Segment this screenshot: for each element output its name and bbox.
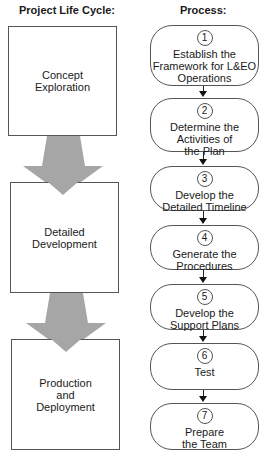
step-number-badge: 1 [197,30,213,46]
stage-label: Detailed Development [32,226,97,250]
connector-arrow-icon [199,159,207,165]
process-header: Process: [180,4,226,16]
connector-arrow-icon [199,336,207,342]
stage-concept-exploration: Concept Exploration [8,26,117,136]
step-label: Develop the Support Plans [170,307,239,331]
step-number-badge: 3 [197,171,213,187]
connector-arrow-icon [199,277,207,283]
process-step-1: 1 Establish the Framework for L&EO Opera… [150,25,259,86]
process-step-4: 4 Generate the Procedures [150,225,259,270]
stage-label: Concept Exploration [35,69,90,93]
step-label: Generate the Procedures [172,248,236,272]
step-number-badge: 4 [197,230,213,246]
stage-production-deployment: Production and Deployment [11,339,120,450]
connector-arrow-icon [199,396,207,402]
stage-label: Production and Deployment [36,377,95,413]
process-step-5: 5 Develop the Support Plans [150,284,259,330]
connector-arrow-icon [199,218,207,224]
process-step-7: 7 Prepare the Team [150,403,259,450]
lifecycle-header: Project Life Cycle: [19,4,115,16]
process-step-2: 2 Determine the Activities of the Plan [150,98,259,152]
process-step-3: 3 Develop the Detailed Timeline [150,166,259,211]
step-label: Prepare the Team [182,426,227,450]
step-number-badge: 5 [197,289,213,305]
step-label: Develop the Detailed Timeline [162,189,246,213]
process-step-6: 6 Test [150,343,259,390]
step-label: Determine the Activities of the Plan [170,121,239,157]
step-number-badge: 6 [197,348,213,364]
step-number-badge: 2 [197,103,213,119]
step-label: Test [194,366,214,378]
connector-arrow-icon [199,91,207,97]
step-label: Establish the Framework for L&EO Operati… [153,48,256,84]
step-number-badge: 7 [197,408,213,424]
stage-detailed-development: Detailed Development [10,182,119,293]
